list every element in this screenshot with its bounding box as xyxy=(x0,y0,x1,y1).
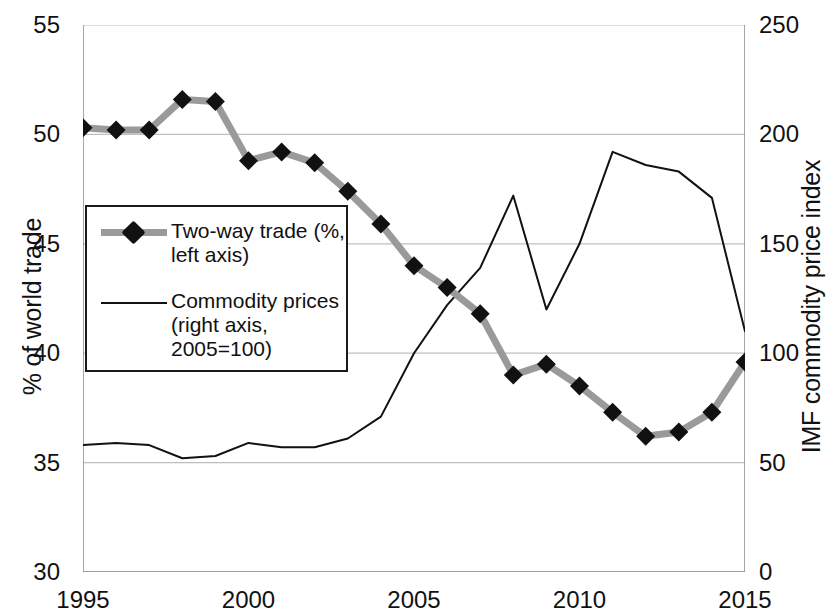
x-axis-tick-2010: 2010 xyxy=(535,586,625,610)
legend-entry-two-way-trade: Two-way trade (%, left axis) xyxy=(97,219,345,267)
y-axis-title-right: IMF commodity price index xyxy=(797,157,826,457)
chart-legend: Two-way trade (%, left axis) Commodity p… xyxy=(85,205,348,372)
y-axis-right-tick-150: 150 xyxy=(759,230,819,258)
y-axis-left-tick-45: 45 xyxy=(8,230,60,258)
x-axis-tick-2005: 2005 xyxy=(369,586,459,610)
y-axis-left-tick-55: 55 xyxy=(8,11,60,39)
y-axis-left-tick-30: 30 xyxy=(8,558,60,586)
diamond-marker-icon xyxy=(121,220,145,244)
y-axis-left-tick-50: 50 xyxy=(8,120,60,148)
legend-label-two-way-trade: Two-way trade (%, left axis) xyxy=(171,219,345,267)
legend-label-commodity-prices: Commodity prices (right axis, 2005=100) xyxy=(171,289,339,361)
y-axis-right-tick-50: 50 xyxy=(759,449,819,477)
legend-key-commodity-prices xyxy=(97,289,171,315)
y-axis-right-tick-200: 200 xyxy=(759,120,819,148)
x-axis-tick-2015: 2015 xyxy=(700,586,790,610)
y-axis-title-left: % of world trade xyxy=(18,157,47,457)
thin-line-icon xyxy=(101,302,167,304)
x-axis-tick-2000: 2000 xyxy=(204,586,294,610)
y-axis-right-tick-0: 0 xyxy=(759,558,819,586)
y-axis-right-tick-250: 250 xyxy=(759,11,819,39)
y-axis-right-tick-100: 100 xyxy=(759,339,819,367)
y-axis-left-tick-35: 35 xyxy=(8,449,60,477)
y-axis-left-tick-40: 40 xyxy=(8,339,60,367)
legend-entry-commodity-prices: Commodity prices (right axis, 2005=100) xyxy=(97,289,339,361)
legend-key-two-way-trade xyxy=(97,219,171,245)
x-axis-tick-1995: 1995 xyxy=(38,586,128,610)
